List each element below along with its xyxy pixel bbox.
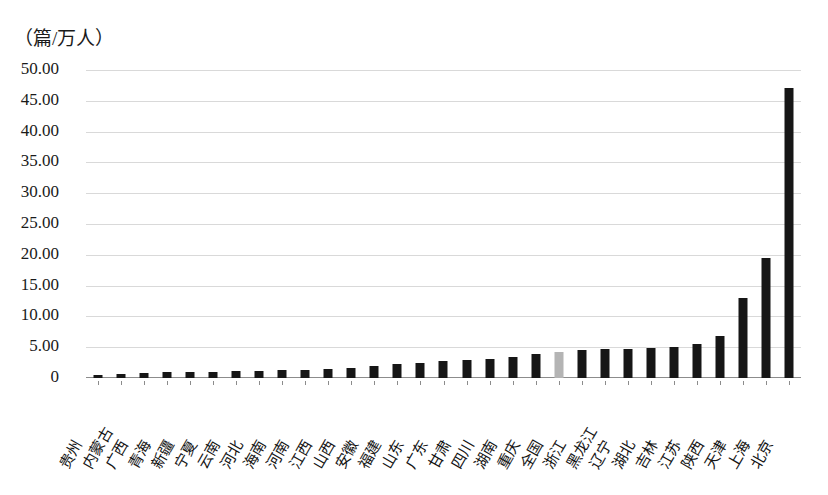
x-axis-labels: 贵州内蒙古广西青海新疆宁夏云南河北海南河南江西山西安徽福建山东广东甘肃四川湖南重… <box>86 381 801 493</box>
bar <box>762 258 771 378</box>
bar-slot <box>593 70 616 378</box>
bar-slot <box>755 70 778 378</box>
x-axis-label: 山西 <box>310 444 334 471</box>
bar <box>508 357 517 378</box>
bar <box>693 344 702 378</box>
x-axis-label: 福建 <box>357 444 381 471</box>
bar-slot <box>294 70 317 378</box>
bar-slot <box>616 70 639 378</box>
bar-slot <box>224 70 247 378</box>
bar <box>254 371 263 378</box>
x-axis-label: 河南 <box>264 444 288 471</box>
bar <box>139 373 148 378</box>
x-axis-label: 云南 <box>195 444 219 471</box>
y-axis-unit-caption: （篇/万人） <box>14 23 114 50</box>
x-axis-label: 湖北 <box>610 444 634 471</box>
bar-slot <box>178 70 201 378</box>
y-axis-tick-label: 0 <box>0 367 59 387</box>
bar <box>647 348 656 378</box>
bar-slot <box>686 70 709 378</box>
bar-series <box>86 70 801 378</box>
bar-chart: （篇/万人） 50.0045.0040.0035.0030.0025.0020.… <box>0 0 828 495</box>
bar <box>185 372 194 378</box>
x-axis-tick <box>213 381 214 385</box>
bar <box>485 359 494 378</box>
x-axis-tick <box>374 381 375 385</box>
bar <box>739 298 748 378</box>
x-axis-tick <box>351 381 352 385</box>
x-axis-tick <box>628 381 629 385</box>
y-axis-tick-label: 5.00 <box>0 336 59 356</box>
x-axis-tick <box>167 381 168 385</box>
bar <box>554 352 563 378</box>
bar-slot <box>340 70 363 378</box>
x-axis-tick <box>789 381 790 385</box>
x-axis-tick <box>121 381 122 385</box>
y-axis-tick-label: 20.00 <box>0 244 59 264</box>
bar-slot <box>132 70 155 378</box>
x-axis-tick <box>697 381 698 385</box>
bar-slot <box>86 70 109 378</box>
bar-slot <box>455 70 478 378</box>
bar <box>624 349 633 378</box>
bar-slot <box>732 70 755 378</box>
bar-slot <box>709 70 732 378</box>
bar-slot <box>201 70 224 378</box>
x-axis-label: 浙江 <box>541 444 565 471</box>
x-axis-tick <box>259 381 260 385</box>
bar <box>716 336 725 379</box>
bar-slot <box>386 70 409 378</box>
bar-slot <box>524 70 547 378</box>
x-axis-tick <box>720 381 721 385</box>
bar <box>208 372 217 378</box>
x-axis-tick <box>513 381 514 385</box>
x-axis-tick <box>490 381 491 385</box>
bar <box>116 374 125 378</box>
y-axis-tick-label: 40.00 <box>0 121 59 141</box>
bar <box>577 350 586 378</box>
bar-slot <box>155 70 178 378</box>
x-axis-label: 陕西 <box>679 444 703 471</box>
bar <box>347 368 356 378</box>
x-axis-label: 江苏 <box>656 444 680 471</box>
y-axis-tick-label: 50.00 <box>0 59 59 79</box>
x-axis-label: 黑龙江 <box>564 444 588 471</box>
x-axis-tick <box>467 381 468 385</box>
bar <box>324 369 333 378</box>
x-axis-tick <box>420 381 421 385</box>
bar <box>600 349 609 378</box>
x-axis-label: 河北 <box>218 444 242 471</box>
bar <box>162 372 171 378</box>
bar-slot <box>409 70 432 378</box>
x-axis-label: 辽宁 <box>587 444 611 471</box>
bar-slot <box>363 70 386 378</box>
x-axis-tick <box>236 381 237 385</box>
x-axis-tick <box>536 381 537 385</box>
bar <box>670 347 679 378</box>
bar-slot <box>570 70 593 378</box>
y-axis-tick-label: 30.00 <box>0 182 59 202</box>
bar <box>301 370 310 378</box>
bar <box>93 375 102 378</box>
x-axis-label: 贵州 <box>57 444 81 471</box>
bar <box>531 354 540 378</box>
bar-slot <box>317 70 340 378</box>
x-axis-tick <box>582 381 583 385</box>
x-axis-label: 宁夏 <box>172 444 196 471</box>
x-axis-tick <box>98 381 99 385</box>
y-axis-tick-label: 35.00 <box>0 151 59 171</box>
x-axis-tick <box>282 381 283 385</box>
x-axis-tick <box>328 381 329 385</box>
x-axis-label: 江西 <box>287 444 311 471</box>
y-axis-tick-label: 15.00 <box>0 275 59 295</box>
x-axis-tick <box>743 381 744 385</box>
x-axis-tick <box>444 381 445 385</box>
x-axis-tick <box>305 381 306 385</box>
bar <box>439 361 448 378</box>
x-axis-tick <box>674 381 675 385</box>
bar-slot <box>640 70 663 378</box>
bar-slot <box>271 70 294 378</box>
bar-slot <box>501 70 524 378</box>
bar <box>393 364 402 378</box>
x-axis-tick <box>144 381 145 385</box>
